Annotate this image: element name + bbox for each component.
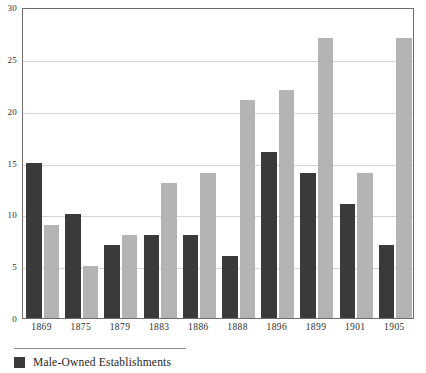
x-tick-label: 1905	[384, 322, 405, 332]
bar	[318, 38, 334, 318]
bar	[357, 173, 373, 318]
x-tick-label: 1901	[345, 322, 366, 332]
x-tick-label: 1875	[70, 322, 91, 332]
bars-layer	[23, 9, 413, 318]
bar	[44, 225, 60, 318]
x-tick-label: 1899	[306, 322, 327, 332]
bar	[83, 266, 99, 318]
legend-label-male-owned: Male-Owned Establishments	[33, 356, 171, 368]
bar	[183, 235, 199, 318]
legend-swatch-male-owned	[14, 357, 25, 368]
y-tick-label: 25	[7, 55, 17, 65]
bar-group	[337, 9, 376, 318]
x-tick-label: 1879	[110, 322, 131, 332]
bar	[261, 152, 277, 318]
bar	[300, 173, 316, 318]
y-tick-label: 5	[12, 262, 17, 272]
bar	[222, 256, 238, 318]
plot-area	[22, 8, 414, 319]
bar	[279, 90, 295, 318]
bar-group	[297, 9, 336, 318]
bar	[379, 245, 395, 318]
bar-group	[258, 9, 297, 318]
x-tick-label: 1883	[149, 322, 170, 332]
bar	[240, 100, 256, 318]
chart-legend: Male-Owned Establishments	[14, 356, 171, 368]
bar	[396, 38, 412, 318]
bar-group	[376, 9, 415, 318]
legend-divider	[14, 348, 186, 349]
y-tick-label: 30	[7, 3, 17, 13]
x-tick-label: 1886	[188, 322, 209, 332]
x-tick-label: 1869	[31, 322, 52, 332]
bar-group	[141, 9, 180, 318]
bar-chart: 051015202530 186918751879188318861888189…	[0, 0, 426, 373]
bar	[26, 163, 42, 319]
bar	[340, 204, 356, 318]
y-axis-labels: 051015202530	[0, 8, 20, 319]
y-tick-label: 10	[7, 210, 17, 220]
bar-group	[219, 9, 258, 318]
bar	[161, 183, 177, 318]
bar-group	[23, 9, 62, 318]
y-tick-label: 15	[7, 159, 17, 169]
bar	[65, 214, 81, 318]
bar	[144, 235, 160, 318]
y-tick-label: 20	[7, 107, 17, 117]
bar	[122, 235, 138, 318]
bar-group	[62, 9, 101, 318]
bar	[200, 173, 216, 318]
x-tick-label: 1896	[266, 322, 287, 332]
bar-group	[101, 9, 140, 318]
x-axis-labels: 1869187518791883188618881896189919011905	[22, 322, 414, 340]
x-tick-label: 1888	[227, 322, 248, 332]
bar-group	[180, 9, 219, 318]
bar	[104, 245, 120, 318]
y-tick-label: 0	[12, 314, 17, 324]
